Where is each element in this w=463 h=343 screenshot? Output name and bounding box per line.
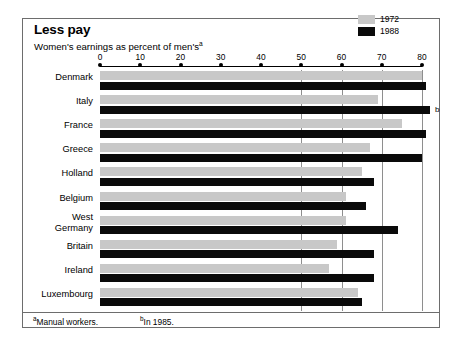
chart-legend: 1972 1988 (358, 14, 399, 38)
x-tick-marker-70 (380, 63, 384, 67)
bar-1988-Britain (100, 250, 374, 258)
bar-1972-West-Germany (100, 216, 346, 225)
bar-1972-Denmark (100, 71, 422, 80)
footnote-divider (23, 312, 439, 313)
x-tick-label-0: 0 (98, 52, 103, 62)
footnote-a: aManual workers. (33, 315, 98, 327)
category-label: Holland (0, 168, 93, 179)
x-tick-label-40: 40 (256, 52, 265, 62)
chart-row: Luxembourg (100, 287, 440, 311)
x-tick-label-10: 10 (136, 52, 145, 62)
x-tick-marker-40 (259, 63, 263, 67)
legend-item-1972: 1972 (358, 14, 399, 25)
category-label: Luxembourg (0, 289, 93, 300)
chart-row: Britain (100, 239, 440, 263)
bar-1988-Greece (100, 154, 422, 162)
subtitle-text: Women's earnings as percent of men's (34, 41, 199, 52)
bar-1988-France (100, 130, 426, 138)
legend-item-1988: 1988 (358, 26, 399, 37)
footnote-a-text: Manual workers. (37, 317, 98, 327)
chart-row: Ireland (100, 263, 440, 287)
category-label: Ireland (0, 265, 93, 276)
chart-row: Denmark (100, 70, 440, 94)
x-tick-label-30: 30 (216, 52, 225, 62)
bar-1972-France (100, 119, 402, 128)
x-tick-label-60: 60 (337, 52, 346, 62)
category-label: Greece (0, 144, 93, 155)
chart-page: Less pay Women's earnings as percent of … (0, 0, 463, 343)
footnote-b-text: In 1985. (144, 317, 174, 327)
bar-1988-Luxembourg (100, 298, 362, 306)
chart-subtitle: Women's earnings as percent of men'sa (34, 40, 203, 52)
legend-swatch-1988 (358, 27, 375, 36)
bar-footnote-marker: b (435, 105, 439, 114)
x-tick-label-50: 50 (297, 52, 306, 62)
x-tick-marker-50 (299, 63, 303, 67)
legend-swatch-1972 (358, 15, 375, 24)
plot-area: DenmarkItalybFranceGreeceHollandBelgiumW… (100, 70, 440, 311)
chart-row: Greece (100, 142, 440, 166)
bar-1972-Ireland (100, 264, 329, 273)
bar-1972-Luxembourg (100, 288, 358, 297)
x-tick-label-80: 80 (417, 52, 426, 62)
legend-label-1972: 1972 (380, 15, 399, 24)
category-label: Belgium (0, 193, 93, 204)
legend-label-1988: 1988 (380, 27, 399, 36)
chart-row: West Germany (100, 215, 440, 239)
category-label: Denmark (0, 72, 93, 83)
category-label: Italy (0, 96, 93, 107)
category-label: Britain (0, 241, 93, 252)
bar-1988-West-Germany (100, 226, 398, 234)
subtitle-footnote-marker: a (199, 40, 203, 47)
x-tick-marker-60 (340, 63, 344, 67)
bar-1972-Greece (100, 143, 370, 152)
bar-1988-Holland (100, 178, 374, 186)
bar-1988-Denmark (100, 82, 426, 90)
bar-1972-Britain (100, 240, 337, 249)
chart-row: Belgium (100, 191, 440, 215)
footnote-b: bIn 1985. (140, 315, 174, 327)
bar-1988-Belgium (100, 202, 366, 210)
x-tick-marker-80 (420, 63, 424, 67)
x-tick-marker-20 (179, 63, 183, 67)
category-label: West Germany (0, 212, 93, 234)
x-tick-label-20: 20 (176, 52, 185, 62)
x-tick-marker-30 (219, 63, 223, 67)
bar-1972-Italy (100, 95, 378, 104)
bar-1988-Ireland (100, 274, 374, 282)
page-title: Less pay (34, 22, 90, 37)
bar-1972-Holland (100, 167, 362, 176)
x-tick-marker-0 (98, 63, 102, 67)
category-label: France (0, 120, 93, 131)
chart-row: France (100, 118, 440, 142)
bar-1972-Belgium (100, 192, 346, 201)
chart-row: Holland (100, 166, 440, 190)
bar-1988-Italy (100, 106, 430, 114)
x-tick-marker-10 (138, 63, 142, 67)
x-tick-label-70: 70 (377, 52, 386, 62)
chart-row: Italyb (100, 94, 440, 118)
